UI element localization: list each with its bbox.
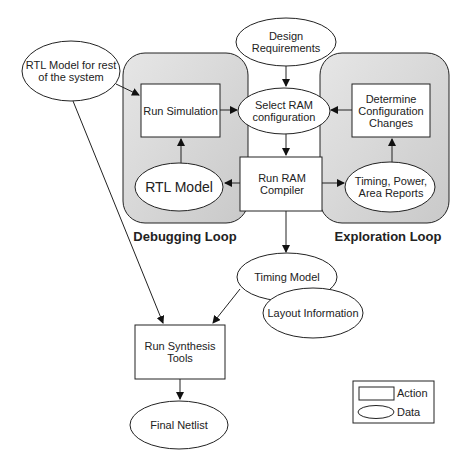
node-select-ram-configuration: Select RAM configuration (246, 96, 322, 126)
flow-diagram: RTL Model for rest of the system Design … (0, 0, 469, 464)
node-final-netlist: Final Netlist (132, 416, 226, 434)
node-timing-model: Timing Model (240, 268, 334, 286)
legend-action-label: Action (397, 386, 433, 400)
node-layout-information: Layout Information (265, 304, 361, 322)
node-design-requirements: Design Requirements (246, 28, 326, 56)
node-determine-configuration-changes: Determine Configuration Changes (352, 84, 430, 137)
node-rtl-model-rest: RTL Model for rest of the system (24, 56, 118, 86)
group-label-exploration-loop: Exploration Loop (318, 228, 458, 246)
node-timing-power-area-reports: Timing, Power, Area Reports (350, 172, 432, 202)
node-rtl-model: RTL Model (137, 174, 221, 200)
node-run-simulation: Run Simulation (141, 84, 220, 137)
legend-data-label: Data (397, 405, 433, 419)
node-run-synthesis-tools: Run Synthesis Tools (140, 337, 220, 367)
node-run-ram-compiler: Run RAM Compiler (256, 157, 308, 211)
group-label-debugging-loop: Debugging Loop (120, 228, 250, 246)
